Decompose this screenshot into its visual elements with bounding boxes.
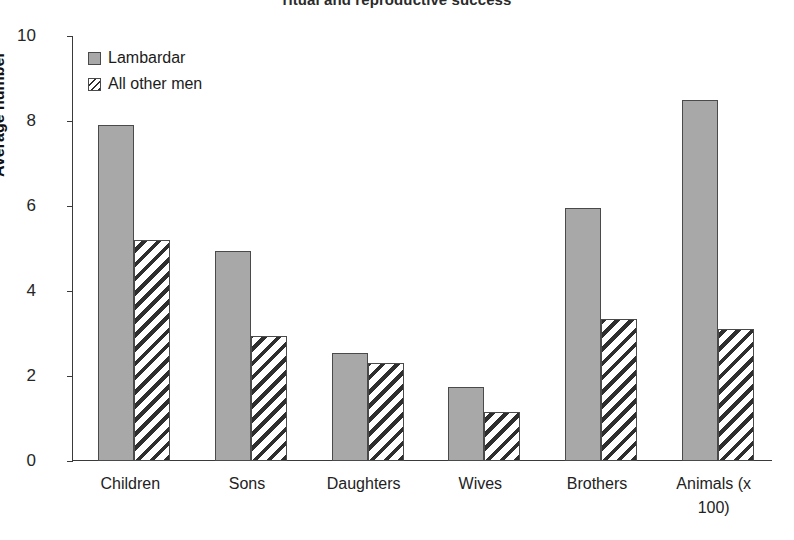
chart-title: ritual and reproductive success — [0, 0, 794, 8]
bar-all-other-men[interactable] — [484, 412, 520, 461]
x-axis-category-label: Animals (x100) — [655, 472, 772, 520]
bar-group — [565, 36, 637, 461]
y-axis-line — [72, 36, 73, 462]
x-axis-category-label: Wives — [422, 472, 539, 496]
legend-item[interactable]: All other men — [88, 72, 202, 96]
plot-area: 0246810 — [72, 36, 772, 461]
y-axis-tick-label: 0 — [0, 451, 36, 471]
bar-lambardar[interactable] — [215, 251, 251, 461]
x-axis-category-label: Sons — [189, 472, 306, 496]
x-label-line: Daughters — [305, 472, 422, 496]
bar-lambardar[interactable] — [98, 125, 134, 461]
x-label-line: Wives — [422, 472, 539, 496]
x-label-line: Children — [72, 472, 189, 496]
bar-group — [448, 36, 520, 461]
legend-item-label: Lambardar — [108, 49, 185, 67]
legend-swatch-icon — [88, 78, 101, 91]
x-label-line: 100) — [655, 496, 772, 520]
x-axis-category-label: Brothers — [539, 472, 656, 496]
bar-all-other-men[interactable] — [251, 336, 287, 461]
x-axis-category-label: Daughters — [305, 472, 422, 496]
y-axis-tick-mark — [67, 291, 72, 292]
bar-all-other-men[interactable] — [718, 329, 754, 461]
bar-group — [215, 36, 287, 461]
y-axis-tick-mark — [67, 36, 72, 37]
bar-all-other-men[interactable] — [601, 319, 637, 461]
chart-legend: LambardarAll other men — [88, 46, 202, 98]
bar-lambardar[interactable] — [448, 387, 484, 461]
x-label-line: Animals (x — [655, 472, 772, 496]
bar-lambardar[interactable] — [332, 353, 368, 461]
y-axis-tick-label: 2 — [0, 366, 36, 386]
bar-group — [332, 36, 404, 461]
x-axis-line — [72, 460, 772, 461]
x-axis-category-label: Children — [72, 472, 189, 496]
y-axis-tick-label: 8 — [0, 111, 36, 131]
legend-item[interactable]: Lambardar — [88, 46, 202, 70]
y-axis-tick-mark — [67, 121, 72, 122]
legend-swatch-icon — [88, 52, 101, 65]
bar-lambardar[interactable] — [682, 100, 718, 461]
y-axis-tick-label: 6 — [0, 196, 36, 216]
y-axis-tick-label: 10 — [0, 26, 36, 46]
y-axis-tick-mark — [67, 461, 72, 462]
bar-all-other-men[interactable] — [368, 363, 404, 461]
y-axis-tick-mark — [67, 376, 72, 377]
x-label-line: Brothers — [539, 472, 656, 496]
y-axis-tick-mark — [67, 206, 72, 207]
bar-all-other-men[interactable] — [134, 240, 170, 461]
bar-lambardar[interactable] — [565, 208, 601, 461]
bar-group — [682, 36, 754, 461]
legend-item-label: All other men — [108, 75, 202, 93]
x-label-line: Sons — [189, 472, 306, 496]
y-axis-tick-label: 4 — [0, 281, 36, 301]
bar-chart: ritual and reproductive success Average … — [0, 0, 794, 540]
bar-group — [98, 36, 170, 461]
